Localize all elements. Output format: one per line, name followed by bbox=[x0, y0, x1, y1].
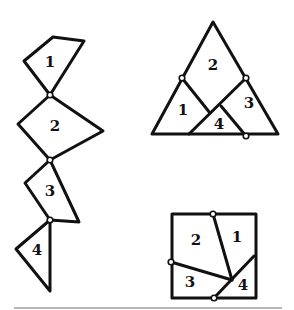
triangle-piece-label-4: 4 bbox=[214, 115, 224, 133]
piece-label-2: 2 bbox=[50, 117, 60, 135]
square-assembly: 1234 bbox=[168, 211, 256, 301]
square-piece-label-4: 4 bbox=[238, 276, 248, 294]
hinge-point bbox=[210, 211, 216, 217]
piece-2 bbox=[18, 95, 103, 160]
triangle-assembly: 2143 bbox=[152, 22, 278, 139]
hinge-point bbox=[211, 295, 217, 301]
square-cut-line bbox=[213, 214, 232, 280]
hinged-chain: 1234 bbox=[16, 37, 103, 291]
triangle-piece-label-3: 3 bbox=[244, 94, 254, 112]
square-piece-label-2: 2 bbox=[191, 231, 201, 249]
hinge-point bbox=[168, 259, 174, 265]
piece-label-4: 4 bbox=[32, 241, 42, 259]
triangle-piece-label-2: 2 bbox=[208, 56, 218, 74]
piece-label-1: 1 bbox=[45, 53, 55, 71]
hinge-point bbox=[243, 75, 249, 81]
square-piece-label-1: 1 bbox=[232, 228, 242, 246]
hinge-point bbox=[47, 92, 53, 98]
hinge-point bbox=[179, 75, 185, 81]
hinge-point bbox=[47, 157, 53, 163]
hinge-point bbox=[243, 133, 249, 139]
triangle-piece-label-1: 1 bbox=[178, 101, 188, 119]
hinge-point bbox=[47, 217, 53, 223]
hinged-dissection-diagram: 1234 2143 1234 bbox=[0, 0, 294, 310]
square-cut-line bbox=[171, 262, 232, 280]
piece-label-3: 3 bbox=[45, 182, 55, 200]
triangle-cut-line bbox=[221, 106, 246, 136]
square-piece-label-3: 3 bbox=[185, 273, 195, 291]
